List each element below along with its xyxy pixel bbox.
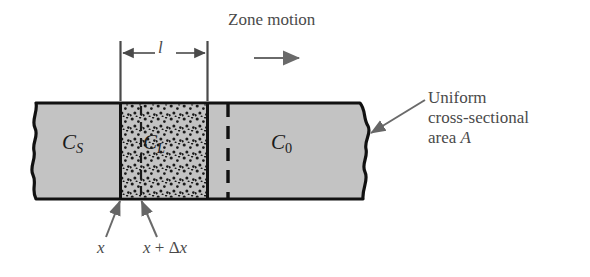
- position-x-plus-delta-x-operator: +: [151, 238, 169, 257]
- liquid-concentration-symbol: C: [143, 130, 157, 154]
- liquid-concentration-label: CL: [143, 130, 165, 157]
- pointer-arrow-to-x: [106, 201, 120, 237]
- delta-symbol: Δ: [169, 238, 180, 257]
- zone-length-label: l: [158, 38, 163, 58]
- solid-concentration-symbol: C: [62, 130, 76, 154]
- uniform-cross-sectional-area-label: Uniformcross-sectionalarea A: [428, 88, 529, 148]
- initial-concentration-label: C0: [271, 130, 292, 157]
- position-x-plus-delta-x-label: x + Δx: [143, 238, 187, 258]
- initial-concentration-subscript: 0: [285, 140, 292, 156]
- uniform-area-line-3-prefix: area: [428, 128, 461, 147]
- liquid-concentration-subscript: L: [157, 140, 165, 156]
- initial-concentration-symbol: C: [271, 130, 285, 154]
- solid-concentration-subscript: S: [76, 140, 83, 156]
- uniform-area-symbol: A: [461, 128, 471, 147]
- solid-concentration-label: CS: [62, 130, 83, 157]
- position-x-plus-delta-x-prefix: x: [143, 238, 151, 257]
- zone-motion-label: Zone motion: [228, 10, 315, 30]
- uniform-area-callout-line: [371, 100, 425, 133]
- position-x-plus-delta-x-suffix: x: [180, 238, 188, 257]
- uniform-area-line-2: cross-sectional: [428, 108, 529, 127]
- uniform-area-line-1: Uniform: [428, 88, 487, 107]
- position-x-label: x: [97, 238, 105, 258]
- zone-refining-figure: Zone motion l CS CL C0 Uniformcross-sect…: [0, 0, 590, 277]
- zone-length-dimension: [121, 41, 208, 101]
- pointer-arrow-to-x-plus-delta-x: [142, 201, 158, 237]
